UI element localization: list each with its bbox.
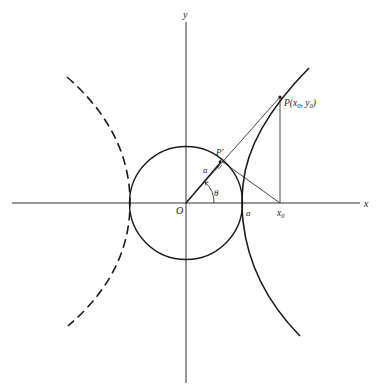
point-P-prime: [219, 161, 222, 164]
angle-arc-theta: [205, 182, 214, 203]
hyperbola-left-branch: [67, 77, 130, 326]
x-axis-label: x: [363, 198, 369, 209]
tangent-line: [220, 160, 280, 203]
x0-label: x0: [276, 208, 285, 219]
vertex-a-label: a: [246, 208, 251, 218]
point-P-label: P(x0, y0): [283, 98, 316, 109]
theta-label: θ: [214, 188, 219, 198]
y-axis-label: y: [182, 9, 188, 20]
point-P: [278, 95, 281, 98]
hyperbola-diagram: y x O P(x0, y0) P′ a θ a x0: [0, 0, 380, 391]
point-P-prime-label: P′: [215, 147, 224, 157]
origin-label: O: [176, 205, 183, 216]
radius-a-label: a: [203, 165, 208, 175]
